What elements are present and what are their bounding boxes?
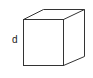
- cube-top-face: [24, 10, 85, 20]
- cube-diagram: d: [0, 0, 93, 78]
- cube-front-face: [24, 20, 64, 66]
- edge-length-label: d: [12, 35, 18, 45]
